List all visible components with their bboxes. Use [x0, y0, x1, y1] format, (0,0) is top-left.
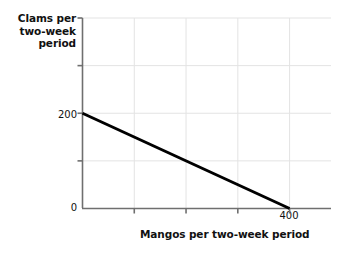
chart-container: Clams per two-week period Mangos per two… [0, 0, 351, 255]
plot-area [0, 0, 351, 255]
horizontal-gridlines [83, 18, 332, 161]
